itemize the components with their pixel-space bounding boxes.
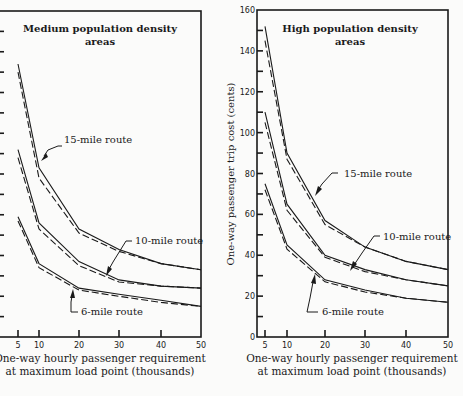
y-ticks: 020406080100120140160: [240, 6, 263, 342]
arrow-icon: [41, 153, 48, 161]
x-ticks: 51020304050: [15, 330, 206, 350]
label-6-mile: 6-mile route: [307, 274, 384, 317]
y-tick-label: 0: [250, 333, 255, 342]
arrow-icon: [311, 274, 316, 284]
x-tick-label: 40: [401, 341, 411, 350]
arrow-icon: [315, 186, 322, 196]
x-tick-label: 30: [360, 341, 370, 350]
x-tick-label: 50: [196, 341, 206, 350]
chart-high-density: 020406080100120140160 51020304050 High p…: [225, 6, 459, 377]
x-tick-label: 50: [443, 341, 453, 350]
x-tick-label: 30: [114, 341, 124, 350]
route-label: 6-mile route: [322, 306, 384, 317]
chart-medium-density: 51020304050 Medium population density ar…: [0, 11, 207, 377]
y-tick-label: 120: [240, 88, 255, 97]
label-10-mile: 10-mile route: [350, 231, 451, 271]
y-tick-label: 20: [245, 292, 255, 301]
panel-title-line1: High population density: [282, 23, 419, 34]
y-tick-label: 140: [240, 47, 255, 56]
plot-frame: [0, 11, 201, 337]
x-tick-label: 10: [34, 341, 44, 350]
x-tick-label: 40: [156, 341, 166, 350]
route-label: 6-mile route: [81, 306, 143, 317]
y-tick-label: 100: [240, 129, 255, 138]
x-axis-label-line1: One-way hourly passenger requirement: [0, 352, 207, 364]
arrow-icon: [106, 266, 112, 276]
figure: 51020304050 Medium population density ar…: [0, 0, 463, 396]
panel-title-line2: areas: [335, 36, 366, 47]
6-mile-route-dashed-line: [18, 221, 201, 307]
x-tick-label: 20: [74, 341, 84, 350]
label-15-mile: 15-mile route: [315, 168, 412, 196]
y-tick-label: 60: [245, 210, 255, 219]
6-mile-route-solid-line: [18, 217, 201, 307]
y-axis-label: One-way passenger trip cost (cents): [225, 82, 236, 265]
x-tick-label: 20: [320, 341, 330, 350]
x-axis-label-line2: at maximum load point (thousands): [6, 365, 195, 377]
y-ticks: [0, 31, 4, 316]
y-tick-label: 80: [245, 170, 255, 179]
6-mile-route-dashed-line: [265, 190, 448, 302]
y-tick-label: 40: [245, 251, 255, 260]
route-label: 10-mile route: [135, 235, 203, 246]
arrow-icon: [70, 289, 75, 298]
x-tick-label: 5: [262, 341, 267, 350]
10-mile-route-solid-line: [265, 112, 448, 286]
route-label: 10-mile route: [383, 231, 451, 242]
label-10-mile: 10-mile route: [106, 235, 203, 276]
x-tick-label: 5: [15, 341, 20, 350]
x-ticks: 51020304050: [262, 330, 453, 350]
x-axis-label-line2: at maximum load point (thousands): [258, 365, 447, 377]
route-label: 15-mile route: [64, 134, 132, 145]
x-axis-label-line1: One-way hourly passenger requirement: [246, 352, 458, 364]
label-6-mile: 6-mile route: [70, 289, 143, 317]
panel-title-line1: Medium population density: [23, 23, 178, 34]
x-tick-label: 10: [282, 341, 292, 350]
y-tick-label: 160: [240, 6, 255, 15]
label-15-mile: 15-mile route: [41, 134, 132, 161]
route-label: 15-mile route: [344, 168, 412, 179]
panel-title-line2: areas: [85, 36, 116, 47]
chart-figure: 51020304050 Medium population density ar…: [0, 0, 463, 396]
6-mile-route-solid-line: [265, 184, 448, 303]
